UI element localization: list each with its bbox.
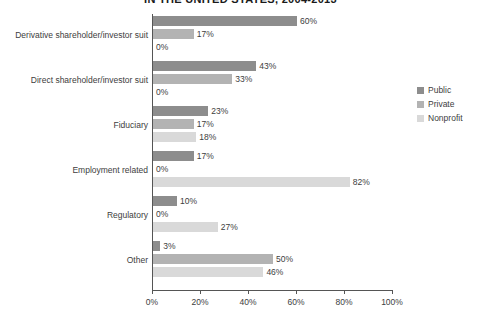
bar-row: 17%: [153, 119, 393, 129]
bar-value-label: 17%: [194, 29, 214, 39]
bar-row: 0%: [153, 209, 393, 219]
legend-swatch-icon: [417, 87, 424, 94]
category-label: Fiduciary: [4, 120, 152, 130]
x-tick-mark: [248, 290, 249, 294]
bar-value-label: 82%: [350, 177, 370, 187]
chart-legend: PublicPrivateNonprofit: [417, 83, 481, 125]
x-tick-label: 20%: [191, 297, 208, 307]
x-tick-mark: [152, 290, 153, 294]
bar-value-label: 46%: [263, 267, 283, 277]
bar-value-label: 27%: [218, 222, 238, 232]
bar-row: 0%: [153, 42, 393, 52]
x-tick-mark: [344, 290, 345, 294]
x-tick-label: 0%: [146, 297, 158, 307]
bar-group: Direct shareholder/investor suit43%33%0%: [0, 61, 481, 100]
bar-value-label: 33%: [232, 74, 252, 84]
plot-area: 0%20%40%60%80%100% Derivative shareholde…: [0, 14, 481, 292]
category-label: Other: [4, 255, 152, 265]
legend-label: Public: [428, 85, 451, 95]
bar-private: [153, 254, 273, 264]
bar-value-label: 17%: [194, 119, 214, 129]
bar-row: 17%: [153, 29, 393, 39]
bar-row: 0%: [153, 87, 393, 97]
bar-row: 43%: [153, 61, 393, 71]
bar-row: 10%: [153, 196, 393, 206]
legend-swatch-icon: [417, 115, 424, 122]
bar-private: [153, 119, 194, 129]
bar-public: [153, 151, 194, 161]
legend-item-private[interactable]: Private: [417, 97, 481, 111]
x-tick-label: 40%: [239, 297, 256, 307]
bar-row: 46%: [153, 267, 393, 277]
bar-value-label: 17%: [194, 151, 214, 161]
bar-row: 17%: [153, 151, 393, 161]
bar-group: Regulatory10%0%27%: [0, 196, 481, 235]
bar-value-label: 10%: [177, 196, 197, 206]
legend-label: Private: [428, 99, 454, 109]
category-label: Regulatory: [4, 210, 152, 220]
bar-row: 18%: [153, 132, 393, 142]
legend-label: Nonprofit: [428, 113, 463, 123]
bar-value-label: 60%: [297, 16, 317, 26]
bar-row: 82%: [153, 177, 393, 187]
bar-group: Fiduciary23%17%18%: [0, 106, 481, 145]
bar-group: Derivative shareholder/investor suit60%1…: [0, 16, 481, 55]
bar-row: 60%: [153, 16, 393, 26]
bar-value-label: 43%: [256, 61, 276, 71]
bar-nonprofit: [153, 177, 350, 187]
bar-public: [153, 61, 256, 71]
bar-row: 0%: [153, 164, 393, 174]
bar-private: [153, 74, 232, 84]
bar-group: Other3%50%46%: [0, 241, 481, 280]
bar-value-label: 0%: [153, 87, 168, 97]
bar-value-label: 0%: [153, 209, 168, 219]
bar-nonprofit: [153, 222, 218, 232]
x-tick-label: 100%: [381, 297, 403, 307]
x-tick-label: 80%: [335, 297, 352, 307]
x-tick-label: 60%: [287, 297, 304, 307]
bar-row: 23%: [153, 106, 393, 116]
x-tick-mark: [200, 290, 201, 294]
bar-value-label: 18%: [196, 132, 216, 142]
x-tick-mark: [392, 290, 393, 294]
bar-public: [153, 241, 160, 251]
bar-public: [153, 196, 177, 206]
bar-row: 50%: [153, 254, 393, 264]
x-tick-mark: [296, 290, 297, 294]
bar-row: 33%: [153, 74, 393, 84]
chart-title: IN THE UNITED STATES, 2004-2013: [0, 0, 481, 5]
bar-value-label: 3%: [160, 241, 175, 251]
bar-private: [153, 29, 194, 39]
x-axis-line: [152, 290, 393, 291]
legend-item-public[interactable]: Public: [417, 83, 481, 97]
category-label: Derivative shareholder/investor suit: [4, 30, 152, 40]
legend-swatch-icon: [417, 101, 424, 108]
category-label: Direct shareholder/investor suit: [4, 75, 152, 85]
bar-nonprofit: [153, 267, 263, 277]
bar-public: [153, 16, 297, 26]
bar-nonprofit: [153, 132, 196, 142]
bar-group: Employment related17%0%82%: [0, 151, 481, 190]
bar-value-label: 50%: [273, 254, 293, 264]
bar-value-label: 0%: [153, 164, 168, 174]
bar-row: 3%: [153, 241, 393, 251]
legend-item-nonprofit[interactable]: Nonprofit: [417, 111, 481, 125]
bar-value-label: 23%: [208, 106, 228, 116]
bar-value-label: 0%: [153, 42, 168, 52]
category-label: Employment related: [4, 165, 152, 175]
bar-row: 27%: [153, 222, 393, 232]
bar-public: [153, 106, 208, 116]
